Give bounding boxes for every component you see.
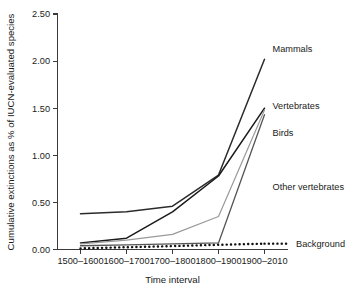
y-axis-title: Cumulative extinctions as % of IUCN-eval… (5, 13, 16, 250)
series-label-birds: Birds (273, 128, 294, 138)
series-label-mammals: Mammals (273, 44, 313, 54)
chart-figure: 0.00 0.50 1.00 1.50 2.00 2.50 1500–1600 … (0, 0, 345, 293)
y-tick-label: 2.00 (32, 56, 50, 66)
x-axis-tick-labels: 1500–1600 1600–1700 1700–1800 1800–1900 … (58, 256, 288, 266)
x-tick-label: 1500–1600 (58, 256, 104, 266)
x-tick-label: 1600–1700 (104, 256, 150, 266)
series-label-background: Background (296, 239, 345, 249)
x-axis-title: Time interval (145, 274, 200, 285)
y-tick-label: 0.50 (32, 198, 50, 208)
y-tick-label: 0.00 (32, 245, 50, 255)
y-tick-label: 2.50 (32, 9, 50, 19)
x-tick-label: 1900–2010 (242, 256, 288, 266)
x-tick-label: 1700–1800 (150, 256, 196, 266)
series-label-other-vertebrates: Other vertebrates (273, 182, 345, 192)
x-tick-label: 1800–1900 (196, 256, 242, 266)
series-label-vertebrates: Vertebrates (273, 101, 320, 111)
y-tick-label: 1.50 (32, 104, 50, 114)
line-chart-svg: 0.00 0.50 1.00 1.50 2.00 2.50 1500–1600 … (0, 0, 345, 293)
y-tick-label: 1.00 (32, 151, 50, 161)
